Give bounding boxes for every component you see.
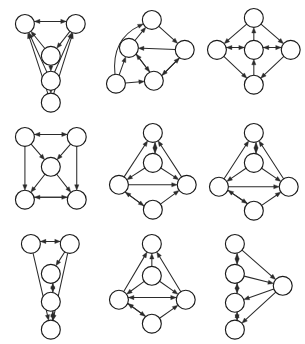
- graph-node: [119, 38, 138, 57]
- graph-node: [142, 235, 161, 254]
- graph-node: [142, 314, 161, 333]
- graph-panel-6: [203, 115, 305, 225]
- graph-node: [245, 153, 264, 172]
- graph-node: [245, 123, 264, 142]
- graph-node: [41, 46, 60, 65]
- graph-node: [67, 127, 86, 146]
- graph-node: [109, 175, 128, 194]
- graph-node: [245, 8, 264, 27]
- graph-node: [41, 265, 60, 284]
- graph-panel-7: [0, 224, 102, 344]
- graph-panel-5: [102, 115, 204, 225]
- graph-panel-4: [0, 115, 102, 225]
- graph-node: [245, 201, 264, 220]
- graph-node: [226, 320, 245, 339]
- digraph-diamond-center-hub: [102, 224, 204, 344]
- graph-node: [41, 71, 60, 90]
- digraph-narrow-tapered-chain: [0, 224, 102, 344]
- graph-node: [210, 177, 229, 196]
- graph-node: [60, 235, 79, 254]
- graph-node: [245, 75, 264, 94]
- graph-node: [106, 74, 125, 93]
- digraph-vertical-diamond-b: [203, 115, 305, 225]
- graph-node: [15, 190, 34, 209]
- graph-node: [41, 93, 60, 112]
- graph-node: [15, 127, 34, 146]
- edge-layer: [124, 140, 181, 205]
- graph-node: [175, 40, 194, 59]
- graph-node: [226, 294, 245, 313]
- graph-node: [280, 177, 299, 196]
- graph-node: [226, 235, 245, 254]
- digraph-left-column-right-sink: [203, 224, 305, 344]
- graph-node: [226, 265, 245, 284]
- node-layer: [109, 123, 196, 219]
- graph-node: [274, 277, 293, 296]
- node-layer: [15, 14, 85, 112]
- graph-panel-3: [203, 0, 305, 115]
- graph-panel-2: [102, 0, 204, 115]
- node-layer: [109, 235, 195, 334]
- node-layer: [208, 8, 301, 94]
- graph-node: [142, 267, 161, 286]
- digraph-vertical-diamond-a: [102, 115, 204, 225]
- node-layer: [226, 235, 293, 340]
- graph-node: [41, 320, 60, 339]
- graph-node: [41, 157, 60, 176]
- node-layer: [210, 123, 299, 220]
- graph-node: [15, 14, 34, 33]
- graph-node: [177, 175, 196, 194]
- digraph-wide-top-triangle-chain: [0, 0, 102, 115]
- edge-layer: [235, 250, 276, 323]
- node-layer: [106, 10, 194, 93]
- graph-node: [208, 40, 227, 59]
- graph-node: [142, 10, 161, 29]
- graph-panel-grid: [0, 0, 305, 344]
- digraph-diamond-with-hub: [203, 0, 305, 115]
- node-layer: [21, 235, 79, 340]
- graph-panel-1: [0, 0, 102, 115]
- graph-node: [144, 71, 163, 90]
- digraph-curved-left-loop-cluster: [102, 0, 204, 115]
- graph-panel-8: [102, 224, 204, 344]
- graph-node: [245, 40, 264, 59]
- graph-node: [282, 40, 301, 59]
- graph-node: [143, 123, 162, 142]
- graph-node: [66, 14, 85, 33]
- graph-node: [67, 190, 86, 209]
- edge-layer: [224, 141, 283, 205]
- graph-panel-9: [203, 224, 305, 344]
- graph-node: [41, 293, 60, 312]
- graph-node: [143, 153, 162, 172]
- graph-node: [143, 200, 162, 219]
- graph-node: [176, 291, 195, 310]
- graph-node: [21, 235, 40, 254]
- digraph-square-with-center: [0, 115, 102, 225]
- graph-node: [109, 291, 128, 310]
